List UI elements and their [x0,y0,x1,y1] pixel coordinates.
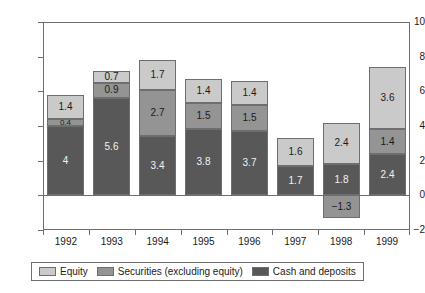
bar-segment-value-label: 1.5 [197,111,211,121]
bar-segment: 3.4 [139,136,176,195]
bar-segment: 0.4 [47,119,84,126]
x-axis-tick-mark [318,230,319,235]
legend-item[interactable]: Securities (excluding equity) [97,266,243,277]
bar-segment-value-label: 2.7 [151,108,165,118]
bar-segment-value-label: 1.4 [59,102,73,112]
x-axis-tick-mark [227,230,228,235]
y-axis-tick-mark [38,91,43,92]
bar-segment-value-label: −1.3 [332,202,352,212]
bar-segment: 4 [47,126,84,195]
bar-segment: 0.9 [93,83,130,99]
bar-segment: 5.6 [93,98,130,195]
bar-segment: 2.4 [323,123,360,165]
bar-segment-value-label: 1.8 [335,175,349,185]
y-axis-tick-mark [38,57,43,58]
bar-segment-value-label: 2.4 [335,138,349,148]
legend-swatch-icon [97,267,114,276]
legend-item[interactable]: Cash and deposits [252,266,356,277]
stacked-bar-chart: 1086420−2 199219931994199519961997199819… [0,0,425,293]
bar-segment-value-label: 3.8 [197,157,211,167]
bar-segment: 1.6 [277,138,314,166]
bar-segment: 1.4 [185,79,222,103]
bar-segment-value-label: 1.6 [289,147,303,157]
x-axis-tick-label: 1996 [226,236,272,247]
bar-segment-value-label: 3.6 [381,93,395,103]
bar-segment: 3.8 [185,129,222,195]
x-axis-tick-mark [89,230,90,235]
bar-segment: 1.7 [139,60,176,89]
bar-segment-value-label: 1.7 [289,176,303,186]
y-axis-tick-mark [38,161,43,162]
x-axis-tick-label: 1992 [43,236,89,247]
y-axis-tick-mark [38,126,43,127]
bar-segment: 1.4 [47,95,84,119]
x-axis-tick-label: 1993 [89,236,135,247]
x-axis-tick-label: 1999 [364,236,410,247]
y-axis-tick-mark [38,22,43,23]
x-axis-tick-label: 1994 [135,236,181,247]
x-axis-tick-mark [43,230,44,235]
bar-segment: 1.4 [369,129,406,153]
legend-label: Cash and deposits [273,266,356,277]
bar-segment-value-label: 4 [63,156,69,166]
legend-swatch-icon [252,267,269,276]
bar-segment-value-label: 5.6 [105,142,119,152]
y-axis-tick-mark [38,195,43,196]
x-axis-tick-label: 1997 [272,236,318,247]
bar-segment: −1.3 [323,195,360,218]
bar-segment: 1.8 [323,164,360,195]
x-axis-tick-mark [364,230,365,235]
bar-segment: 2.4 [369,154,406,196]
x-axis-tick-mark [181,230,182,235]
bar-segment-value-label: 2.4 [381,170,395,180]
bar-segment: 1.5 [185,103,222,129]
bar-segment-value-label: 3.7 [243,158,257,168]
bar-segment-value-label: 3.4 [151,161,165,171]
x-axis-tick-mark [135,230,136,235]
x-axis-tick-mark [409,230,410,235]
y-axis-tick-label: −2 [391,225,425,235]
chart-legend: EquitySecurities (excluding equity)Cash … [31,262,364,281]
x-axis-tick-mark [272,230,273,235]
bar-segment: 2.7 [139,90,176,137]
bar-segment: 3.6 [369,67,406,129]
bar-segment: 1.7 [277,166,314,195]
bar-segment: 1.5 [231,105,268,131]
bar-segment-value-label: 1.4 [243,88,257,98]
bar-segment-value-label: 1.4 [381,137,395,147]
x-axis-tick-label: 1995 [181,236,227,247]
bar-segment: 0.7 [93,71,130,83]
bar-segment-value-label: 1.4 [197,86,211,96]
y-axis-tick-label: 8 [391,52,425,62]
bar-segment-value-label: 1.7 [151,70,165,80]
bar-segment-value-label: 1.5 [243,113,257,123]
y-axis-tick-label: 10 [391,17,425,27]
x-axis-tick-label: 1998 [318,236,364,247]
bar-segment-value-label: 0.9 [105,85,119,95]
bar-segment: 1.4 [231,81,268,105]
bar-segment-value-label: 0.7 [105,72,119,82]
legend-label: Securities (excluding equity) [118,266,243,277]
bar-segment: 3.7 [231,131,268,195]
legend-swatch-icon [39,267,56,276]
legend-item[interactable]: Equity [39,266,88,277]
legend-label: Equity [60,266,88,277]
